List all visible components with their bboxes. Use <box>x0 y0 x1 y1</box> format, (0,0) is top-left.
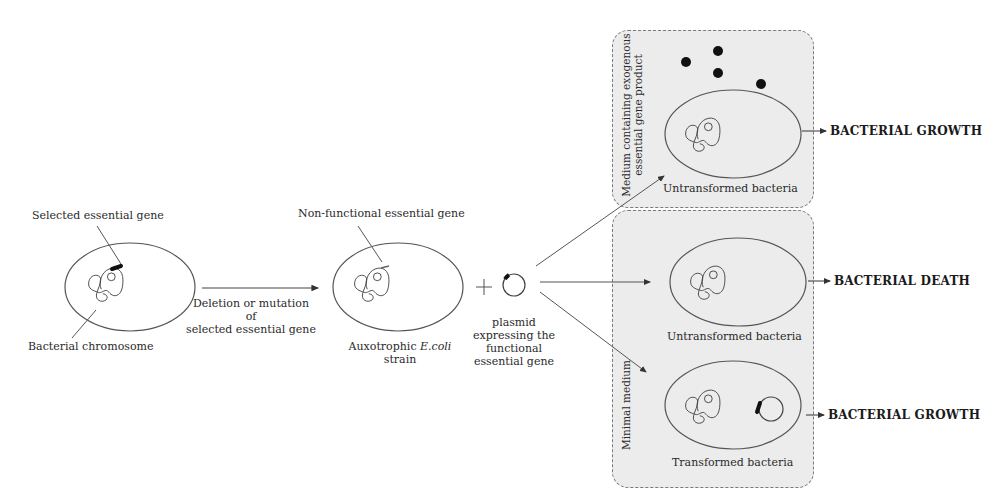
exogenous-medium-line2: essential gene product <box>632 30 644 200</box>
arrow-caption-line1: Deletion or mutation of <box>186 297 316 323</box>
label-exogenous-medium: Medium containing exogenous essential ge… <box>620 30 644 200</box>
outcome-death: BACTERIAL DEATH <box>834 274 970 288</box>
diagram-canvas <box>0 0 1006 502</box>
label-top-untransformed: Untransformed bacteria <box>663 182 798 195</box>
label-selected-essential-gene: Selected essential gene <box>32 209 164 222</box>
plasmid-line4: essential gene <box>460 355 568 368</box>
ecoli-italic: E.coli <box>420 340 451 353</box>
arrow-caption-deletion: Deletion or mutation of selected essenti… <box>186 297 316 336</box>
auxotrophic-strain-line2: strain <box>330 353 470 366</box>
exogenous-medium-line1: Medium containing exogenous <box>620 30 632 200</box>
plasmid-line1: plasmid <box>460 316 568 329</box>
plasmid-line3: functional <box>460 342 568 355</box>
label-plasmid: plasmid expressing the functional essent… <box>460 316 568 368</box>
label-minimal-medium: Minimal medium <box>620 350 632 460</box>
auxotrophic-prefix: Auxotrophic <box>349 340 420 353</box>
essential-gene-mark <box>112 266 121 269</box>
plasmid-line2: expressing the <box>460 329 568 342</box>
label-bacterial-chromosome: Bacterial chromosome <box>28 340 153 353</box>
minimal-medium-text: Minimal medium <box>620 350 632 460</box>
transformed-bacterium <box>665 361 801 449</box>
original-bacterium <box>65 226 195 338</box>
auxotrophic-bacterium <box>333 226 463 331</box>
label-auxotrophic-strain: Auxotrophic E.coli strain <box>330 340 470 366</box>
plasmid-icon <box>503 274 525 296</box>
label-non-functional-gene: Non-functional essential gene <box>298 207 465 220</box>
arrow-caption-line2: selected essential gene <box>186 323 316 336</box>
top-untransformed-bacterium <box>665 90 801 178</box>
label-transformed: Transformed bacteria <box>672 456 793 469</box>
arrow-to-exogenous <box>536 176 664 266</box>
outcome-top-growth: BACTERIAL GROWTH <box>830 124 982 138</box>
exogenous-gene-product-dots <box>681 46 766 89</box>
label-minimal-untransformed: Untransformed bacteria <box>667 330 802 343</box>
minimal-untransformed-bacterium <box>670 238 806 326</box>
outcome-bottom-growth: BACTERIAL GROWTH <box>828 408 980 422</box>
